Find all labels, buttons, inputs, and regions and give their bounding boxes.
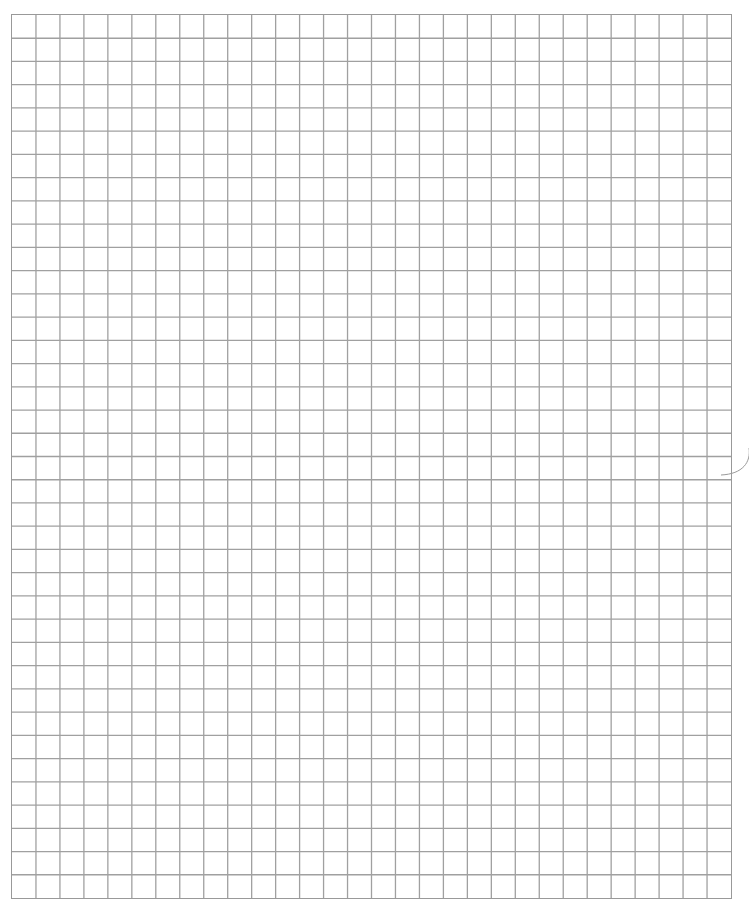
grid-lines bbox=[12, 15, 731, 898]
hole-punch-arc-mark bbox=[715, 440, 749, 480]
page-title-fragment bbox=[200, 0, 550, 6]
graph-grid bbox=[11, 14, 732, 899]
graph-paper-page bbox=[0, 0, 749, 909]
